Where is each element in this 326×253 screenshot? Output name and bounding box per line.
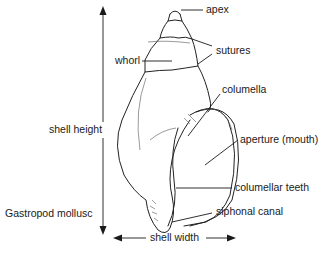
label-columellar-teeth: columellar teeth <box>235 181 309 193</box>
gastropod-diagram: apex sutures whorl columella aperture (m… <box>0 0 326 253</box>
label-siphonal-canal: siphonal canal <box>216 205 283 217</box>
label-columella: columella <box>222 83 267 95</box>
figure-caption: Gastropod mollusc <box>5 207 93 219</box>
label-apex: apex <box>206 3 230 15</box>
label-whorl: whorl <box>114 54 140 66</box>
shell-height-arrow <box>100 6 107 235</box>
label-sutures: sutures <box>216 44 250 56</box>
label-shell-width: shell width <box>150 231 199 243</box>
label-aperture: aperture (mouth) <box>240 133 318 145</box>
label-shell-height: shell height <box>49 123 102 135</box>
